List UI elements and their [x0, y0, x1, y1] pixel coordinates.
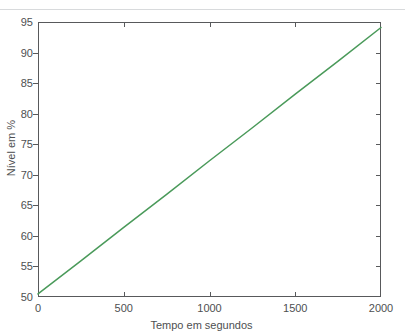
tick-mark [376, 114, 381, 115]
tick-mark [33, 114, 38, 115]
series-layer [38, 22, 381, 297]
series-line-nivel [38, 28, 381, 294]
tick-mark [124, 292, 125, 297]
tick-mark [376, 175, 381, 176]
tick-mark [33, 266, 38, 267]
tick-mark [376, 205, 381, 206]
tick-mark [33, 83, 38, 84]
y-tick-label: 95 [7, 17, 33, 28]
tick-mark [124, 22, 125, 27]
x-tick-label: 1500 [283, 303, 307, 314]
tick-mark [210, 292, 211, 297]
x-tick-label: 2000 [369, 303, 393, 314]
tick-mark [33, 205, 38, 206]
x-axis-title: Tempo em segundos [0, 319, 405, 331]
y-tick-label: 65 [7, 200, 33, 211]
y-tick-label: 60 [7, 230, 33, 241]
tick-mark [376, 83, 381, 84]
tick-mark [376, 266, 381, 267]
tick-mark [33, 175, 38, 176]
x-tick-label: 0 [35, 303, 41, 314]
tick-mark [33, 236, 38, 237]
tick-mark [295, 292, 296, 297]
tick-mark [210, 22, 211, 27]
x-axis-title-text: Tempo em segundos [150, 319, 252, 331]
tick-mark [295, 22, 296, 27]
y-tick-label: 90 [7, 47, 33, 58]
tick-mark [376, 236, 381, 237]
y-axis-title: Nível em % [5, 98, 17, 198]
tick-mark [33, 53, 38, 54]
tick-mark [33, 144, 38, 145]
tick-mark [376, 53, 381, 54]
x-axis-tick-labels: 0500100015002000 [0, 303, 405, 319]
chart-figure: 50556065707580859095 0500100015002000 Te… [0, 0, 405, 334]
x-tick-label: 500 [115, 303, 133, 314]
y-tick-label: 55 [7, 261, 33, 272]
y-tick-label: 85 [7, 78, 33, 89]
y-tick-label: 50 [7, 292, 33, 303]
x-tick-label: 1000 [197, 303, 221, 314]
tick-mark [376, 144, 381, 145]
